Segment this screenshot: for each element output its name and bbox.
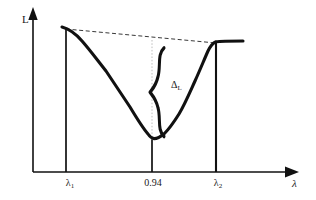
axes-group — [28, 7, 299, 177]
arrow-up-icon — [28, 7, 37, 20]
delta-subscript: L — [177, 84, 181, 92]
arrow-right-icon — [285, 167, 299, 178]
plot-canvas — [0, 0, 316, 200]
lambda1-subscript: 1 — [71, 182, 75, 190]
figure-container: L λ λ1 0.94 λ2 ΔL — [0, 0, 316, 200]
lambda2-subscript: 2 — [219, 182, 223, 190]
delta-l-annotation-label: ΔL — [171, 79, 182, 90]
x-tick-label-lambda1: λ1 — [66, 178, 74, 188]
y-axis-label: L — [22, 14, 29, 25]
x-tick-label-lambda2: λ2 — [214, 178, 222, 188]
peak-chord-dashed-line — [66, 29, 216, 43]
x-tick-label-center: 0.94 — [144, 178, 162, 188]
x-axis-label: λ — [292, 178, 297, 189]
